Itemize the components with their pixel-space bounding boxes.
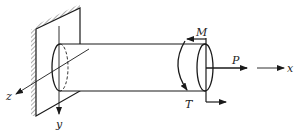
shaft	[52, 44, 213, 91]
x-axis-label: x	[287, 62, 294, 75]
y-axis-label: y	[55, 118, 63, 131]
torque-label: T	[185, 98, 194, 111]
axial-force-label: P	[231, 54, 240, 67]
shaft-loading-diagram: M P T x y z	[0, 0, 296, 132]
wall-hatching-left	[31, 29, 36, 116]
moment-label: M	[195, 26, 208, 39]
z-axis-label: z	[5, 90, 12, 103]
